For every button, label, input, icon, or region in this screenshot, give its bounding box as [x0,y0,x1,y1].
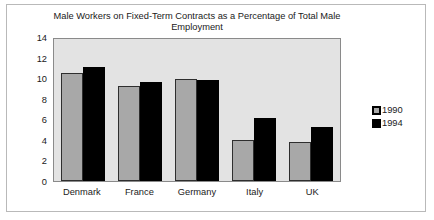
y-tick-label: 12 [21,54,47,64]
x-tick-label: UK [283,187,341,197]
bar-germany-1994 [197,80,219,181]
y-tick-label: 10 [21,74,47,84]
bar-france-1994 [140,82,162,181]
bar-group [283,39,340,181]
bar-denmark-1990 [61,73,83,181]
legend-swatch-icon [372,119,381,128]
bar-uk-1990 [289,142,311,181]
bar-group [54,39,111,181]
legend-label: 1994 [382,118,403,129]
y-tick-label: 4 [21,136,47,146]
x-tick-label: Italy [226,187,284,197]
chart-title: Male Workers on Fixed-Term Contracts as … [47,11,347,33]
plot-area [53,38,341,182]
bar-uk-1994 [311,127,333,182]
bar-germany-1990 [175,79,197,181]
y-tick-label: 6 [21,115,47,125]
legend-label: 1990 [382,105,403,116]
chart-frame: Male Workers on Fixed-Term Contracts as … [6,4,426,212]
y-tick-label: 14 [21,33,47,43]
bar-group [111,39,168,181]
bars-layer [54,39,340,181]
bar-group [168,39,225,181]
legend-item-1990[interactable]: 1990 [372,104,403,117]
x-tick-label: Denmark [53,187,111,197]
bar-group [226,39,283,181]
chart-legend: 19901994 [371,103,405,131]
bar-italy-1994 [254,118,276,181]
y-axis: 14121086420 [21,31,47,189]
x-tick-label: Germany [168,187,226,197]
y-tick-label: 8 [21,95,47,105]
legend-item-1994[interactable]: 1994 [372,117,403,130]
x-axis: DenmarkFranceGermanyItalyUK [53,187,341,197]
y-tick-label: 0 [21,177,47,187]
bar-italy-1990 [232,140,254,181]
bar-denmark-1994 [83,67,105,181]
y-tick-label: 2 [21,156,47,166]
legend-swatch-icon [372,106,381,115]
bar-france-1990 [118,86,140,181]
x-tick-label: France [111,187,169,197]
